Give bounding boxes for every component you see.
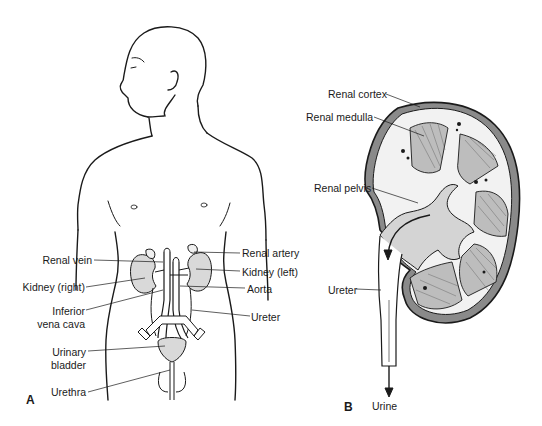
label-renal-medulla: Renal medulla (306, 111, 373, 123)
label-kidney-right: Kidney (right) (4, 281, 85, 293)
label-urinary-bladder-line2: bladder (20, 359, 86, 371)
label-inferior-vena-cava-line1: Inferior (20, 305, 85, 317)
label-urinary-bladder-line1: Urinary (20, 346, 86, 358)
label-urine: Urine (372, 400, 397, 412)
label-aorta: Aorta (247, 283, 272, 295)
panel-letter-a: A (26, 393, 35, 407)
label-renal-cortex: Renal cortex (328, 88, 387, 100)
label-ureter-a: Ureter (251, 311, 280, 323)
panel-letter-b: B (344, 400, 353, 414)
kidney-section (365, 102, 519, 397)
label-kidney-left: Kidney (left) (242, 266, 298, 278)
label-renal-artery: Renal artery (242, 247, 299, 259)
label-renal-pelvis: Renal pelvis (314, 182, 371, 194)
label-inferior-vena-cava-line2: vena cava (20, 318, 85, 330)
label-renal-vein: Renal vein (22, 254, 92, 266)
label-ureter-b: Ureter (328, 284, 357, 296)
urinary-organs (131, 244, 212, 400)
